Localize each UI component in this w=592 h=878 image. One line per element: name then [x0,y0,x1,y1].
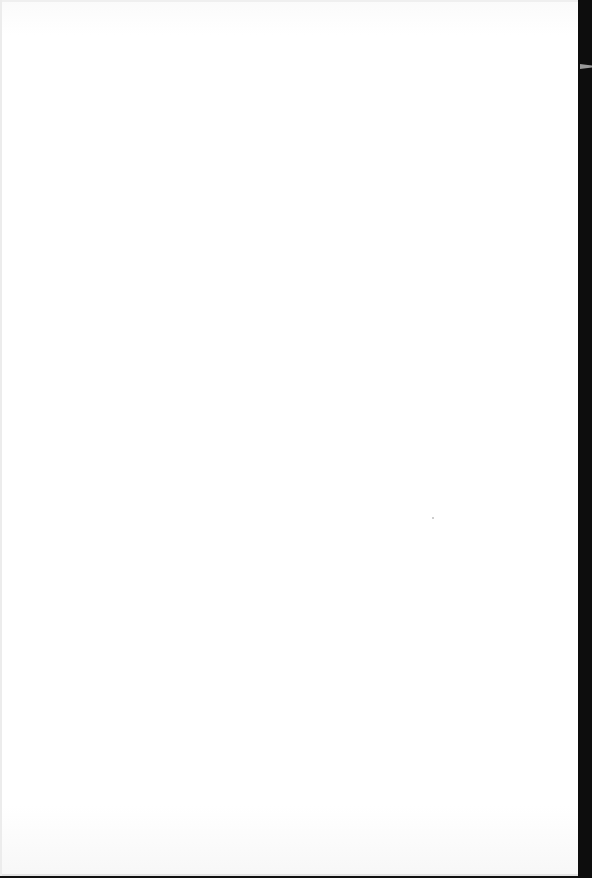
blank-paper-page [0,0,578,876]
photo-frame [0,0,592,878]
paper-speck [432,517,434,519]
dark-background-edge [578,0,592,878]
